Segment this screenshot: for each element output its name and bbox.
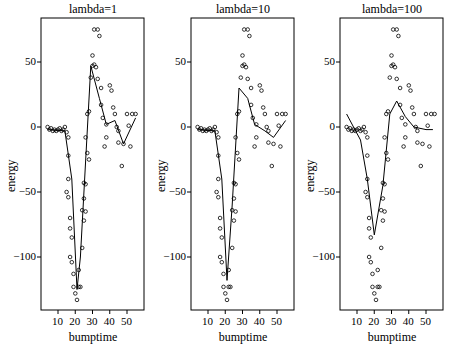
data-point: [258, 84, 262, 88]
plot-frame: [41, 18, 144, 310]
data-point: [237, 158, 241, 162]
data-point: [373, 292, 377, 296]
x-tick-label: 10: [202, 315, 213, 327]
x-tick-label: 10: [351, 315, 362, 327]
data-point: [400, 116, 404, 120]
x-tick-label: 30: [386, 315, 397, 327]
data-point: [388, 76, 392, 80]
data-point: [111, 106, 115, 110]
data-point: [275, 112, 279, 116]
data-point: [277, 124, 281, 128]
data-point: [381, 197, 385, 201]
data-point: [220, 236, 224, 240]
data-point: [94, 65, 98, 69]
data-point: [426, 124, 430, 128]
data-point: [265, 125, 269, 129]
plot-frame: [340, 18, 443, 310]
data-point: [404, 136, 408, 140]
data-point: [381, 219, 385, 223]
x-tick-label: 20: [69, 315, 80, 327]
data-point: [424, 112, 428, 116]
data-point: [230, 246, 234, 250]
data-point: [242, 28, 246, 32]
data-point: [70, 236, 74, 240]
fit-line: [198, 88, 286, 280]
data-point: [246, 77, 250, 81]
x-tick-label: 20: [368, 315, 379, 327]
data-point: [253, 145, 257, 149]
data-point: [65, 190, 69, 194]
data-point: [255, 136, 259, 140]
y-tick-label: −100: [312, 250, 335, 262]
data-point: [416, 129, 420, 133]
plot-area: [150, 0, 300, 354]
fit-line: [48, 66, 136, 290]
data-point: [261, 106, 265, 110]
data-point: [412, 112, 416, 116]
data-point: [99, 86, 103, 90]
data-point: [260, 89, 264, 93]
data-point: [239, 76, 243, 80]
data-point: [92, 28, 96, 32]
data-point: [383, 210, 387, 214]
data-point: [395, 28, 399, 32]
data-point: [110, 89, 114, 93]
data-point: [67, 177, 71, 181]
panel-lambda-100: lambda=1001020304050500−50−100bumptimeen…: [299, 0, 449, 354]
data-point: [96, 28, 100, 32]
data-point: [234, 210, 238, 214]
data-point: [404, 123, 408, 127]
data-point: [225, 298, 229, 302]
y-tick-label: 50: [324, 55, 335, 67]
data-point: [232, 219, 236, 223]
data-point: [220, 260, 224, 264]
panel-lambda-1: lambda=11020304050500−50−100bumptimeener…: [0, 0, 150, 354]
data-point: [244, 65, 248, 69]
data-point: [249, 86, 253, 90]
data-point: [127, 124, 131, 128]
data-point: [217, 195, 221, 199]
data-point: [390, 54, 394, 58]
data-point: [383, 136, 387, 140]
data-point: [402, 145, 406, 149]
data-point: [67, 136, 71, 140]
data-point: [125, 112, 129, 116]
x-tick-label: 50: [420, 315, 431, 327]
data-point: [215, 190, 219, 194]
data-point: [379, 246, 383, 250]
y-tick-label: −100: [163, 250, 186, 262]
data-point: [96, 77, 100, 81]
data-point: [241, 54, 245, 58]
data-point: [218, 216, 222, 220]
data-point: [366, 136, 370, 140]
data-point: [120, 164, 124, 168]
data-point: [74, 292, 78, 296]
x-tick-label: 30: [87, 315, 98, 327]
y-tick-label: 50: [25, 55, 36, 67]
y-tick-label: 50: [175, 55, 186, 67]
data-point: [393, 65, 397, 69]
data-point: [367, 255, 371, 259]
plot-area: [0, 0, 150, 354]
y-tick-label: −50: [169, 185, 186, 197]
y-tick-label: −50: [318, 185, 335, 197]
data-point: [248, 34, 252, 38]
data-point: [108, 84, 112, 88]
data-point: [279, 145, 283, 149]
data-point: [391, 28, 395, 32]
y-axis-label: energy: [154, 160, 169, 192]
plot-frame: [191, 18, 294, 310]
x-tick-label: 40: [104, 315, 115, 327]
data-point: [70, 260, 74, 264]
data-point: [419, 164, 423, 168]
data-point: [369, 236, 373, 240]
x-tick-label: 50: [271, 315, 282, 327]
y-tick-label: 0: [330, 120, 336, 132]
data-point: [263, 112, 267, 116]
data-point: [386, 158, 390, 162]
x-axis-label: bumptime: [41, 330, 145, 345]
x-axis-label: bumptime: [191, 330, 295, 345]
data-point: [364, 130, 368, 134]
data-point: [117, 141, 121, 145]
data-point: [421, 142, 425, 146]
